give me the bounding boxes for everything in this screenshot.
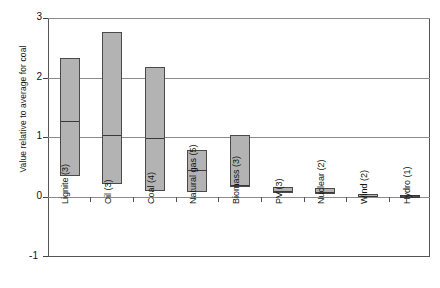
y-tick-label-1: 1 [24, 131, 42, 141]
y-tick-label-0: 0 [24, 191, 42, 201]
x-axis-bottom-line [48, 256, 430, 257]
x-tick-2 [133, 197, 134, 202]
x-tick-6 [304, 197, 305, 202]
y-tick-mark-0 [43, 197, 48, 198]
box-oil [102, 32, 122, 184]
y-axis-title: Value relative to average for coal [18, 14, 28, 204]
median-line-oil [103, 135, 121, 136]
chart-figure: Value relative to average for coal 3 2 1… [0, 0, 440, 288]
y-tick-label-neg-1: -1 [20, 251, 38, 261]
y-tick-mark-3 [43, 18, 48, 19]
y-tick-mark-neg-1 [43, 256, 48, 257]
x-tick-3 [176, 197, 177, 202]
x-tick-8 [389, 197, 390, 202]
x-label-biomass: Biomass (3) [232, 156, 241, 204]
x-label-natural-gas: Natural gas (5) [189, 144, 198, 204]
x-label-oil: Oil (3) [104, 180, 113, 205]
x-label-lignite: Lignite (3) [61, 164, 70, 204]
box-lignite [60, 58, 80, 176]
y-tick-mark-2 [43, 78, 48, 79]
x-label-hydro: Hydro (1) [403, 166, 412, 204]
x-tick-4 [218, 197, 219, 202]
median-line-lignite [61, 121, 79, 122]
x-label-nuclear: Nuclear (2) [317, 159, 326, 204]
x-label-coal: Coal (4) [147, 172, 156, 204]
gridline-3 [48, 18, 430, 19]
x-label-wind: Wind (2) [360, 170, 369, 204]
y-tick-mark-1 [43, 137, 48, 138]
median-line-coal [146, 138, 164, 139]
y-tick-label-2: 2 [24, 72, 42, 82]
x-label-pv: PV (3) [275, 178, 284, 204]
x-tick-7 [346, 197, 347, 202]
x-tick-5 [261, 197, 262, 202]
y-tick-label-3: 3 [24, 12, 42, 22]
x-tick-1 [90, 197, 91, 202]
plot-area: Lignite (3) Oil (3) Coal (4) Natural gas… [48, 18, 430, 257]
